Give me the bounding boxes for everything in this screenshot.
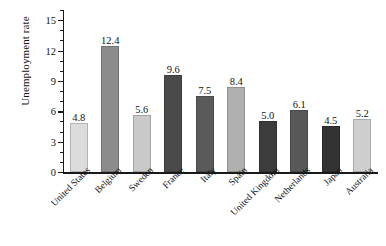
bar-value-label: 4.5 xyxy=(324,115,337,126)
y-tick-major xyxy=(58,172,64,173)
y-tick-minor xyxy=(60,91,64,92)
bar[interactable]: 9.6 xyxy=(164,75,182,172)
bar-value-label: 5.6 xyxy=(135,104,148,115)
y-tick-label: 0 xyxy=(51,167,56,178)
bar-value-label: 5.2 xyxy=(356,108,369,119)
bar-value-label: 8.4 xyxy=(230,76,243,87)
bar-value-label: 9.6 xyxy=(167,64,180,75)
y-tick-major xyxy=(58,111,64,112)
y-tick-label: 3 xyxy=(51,136,56,147)
bar-group[interactable]: 9.6 xyxy=(164,10,182,172)
bar-group[interactable]: 5.0 xyxy=(259,10,277,172)
bar-group[interactable]: 5.6 xyxy=(133,10,151,172)
y-tick-minor xyxy=(60,71,64,72)
bar-value-label: 5.0 xyxy=(261,110,274,121)
bar[interactable]: 5.6 xyxy=(133,115,151,172)
y-tick-label: 6 xyxy=(51,106,56,117)
bar[interactable]: 6.1 xyxy=(290,110,308,172)
y-axis-title: Unemployment rate xyxy=(19,0,31,131)
bar-chart: Unemployment rate 03691215 4.812.45.69.6… xyxy=(0,0,386,246)
y-tick-minor xyxy=(60,61,64,62)
y-tick-label: 15 xyxy=(46,15,57,26)
y-tick-minor xyxy=(60,40,64,41)
y-tick-minor xyxy=(60,132,64,133)
bar-group[interactable]: 8.4 xyxy=(227,10,245,172)
y-tick-label: 12 xyxy=(46,45,57,56)
y-tick-major xyxy=(58,142,64,143)
y-tick-label: 9 xyxy=(51,75,56,86)
bar-value-label: 12.4 xyxy=(101,35,119,46)
bar[interactable]: 12.4 xyxy=(101,46,119,172)
bar-group[interactable]: 4.5 xyxy=(322,10,340,172)
bar-value-label: 7.5 xyxy=(198,85,211,96)
bar-group[interactable]: 5.2 xyxy=(353,10,371,172)
plot-area: 03691215 4.812.45.69.67.58.45.06.14.55.2 xyxy=(63,10,378,172)
y-tick-major xyxy=(58,20,64,21)
bar-value-label: 4.8 xyxy=(72,112,85,123)
bar-group[interactable]: 7.5 xyxy=(196,10,214,172)
y-tick-major xyxy=(58,51,64,52)
y-tick-minor xyxy=(60,10,64,11)
y-tick-minor xyxy=(60,162,64,163)
bar[interactable]: 5.2 xyxy=(353,119,371,172)
bar-group[interactable]: 12.4 xyxy=(101,10,119,172)
bar[interactable]: 8.4 xyxy=(227,87,245,172)
y-tick-minor xyxy=(60,30,64,31)
bar-group[interactable]: 4.8 xyxy=(70,10,88,172)
y-tick-minor xyxy=(60,152,64,153)
y-tick-major xyxy=(58,81,64,82)
bar[interactable]: 7.5 xyxy=(196,96,214,172)
y-tick-minor xyxy=(60,121,64,122)
y-tick-minor xyxy=(60,101,64,102)
bar-group[interactable]: 6.1 xyxy=(290,10,308,172)
bar-value-label: 6.1 xyxy=(293,99,306,110)
